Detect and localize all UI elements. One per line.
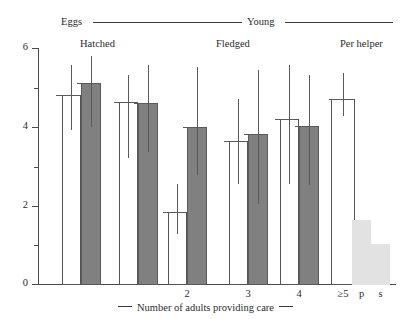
x-tick-label-4: 4 bbox=[275, 288, 323, 299]
errorbar-cap-open-hatched bbox=[114, 102, 136, 103]
errorbar-cap-filled-eggs bbox=[77, 83, 99, 84]
bar-per-helper-s bbox=[371, 244, 390, 285]
errorbar-filled-4 bbox=[309, 75, 310, 185]
errorbar-cap-open-4 bbox=[275, 119, 297, 120]
y-tick-label-6: 6 bbox=[8, 41, 28, 52]
errorbar-cap-filled-hatched bbox=[134, 103, 156, 104]
errorbar-filled-eggs bbox=[91, 56, 92, 127]
errorbar-cap-open-3 bbox=[224, 141, 246, 142]
y-tick-1 bbox=[34, 245, 39, 246]
caption-text: Number of adults providing care bbox=[137, 302, 274, 313]
errorbar-cap-filled-4 bbox=[295, 126, 317, 127]
errorbar-open-2 bbox=[177, 184, 178, 234]
errorbar-cap-filled-2 bbox=[183, 127, 205, 128]
errorbar-filled-2 bbox=[197, 67, 198, 175]
caption-dash-right bbox=[279, 306, 293, 307]
errorbar-open-hatched bbox=[128, 75, 129, 158]
errorbar-open-eggs bbox=[71, 65, 72, 130]
x-tick-label-s: s bbox=[367, 288, 394, 299]
x-tick-label-3: 3 bbox=[224, 288, 272, 299]
bar-per-helper-p bbox=[352, 220, 371, 285]
y-tick-3 bbox=[34, 167, 39, 168]
errorbar-cap-filled-3 bbox=[244, 134, 266, 135]
y-tick-label-4: 4 bbox=[8, 120, 28, 131]
errorbar-filled-hatched bbox=[148, 65, 149, 152]
y-tick-5 bbox=[34, 88, 39, 89]
errorbar-open-4 bbox=[289, 65, 290, 184]
errorbar-cap-open-2 bbox=[163, 212, 185, 213]
y-tick-6 bbox=[32, 48, 39, 49]
errorbar-open-5plus bbox=[343, 73, 344, 116]
y-tick-0 bbox=[32, 284, 39, 285]
x-axis-caption: Number of adults providing care bbox=[0, 301, 411, 313]
chart-figure: Eggs Young Hatched Fledged Per helper 6 … bbox=[0, 0, 411, 319]
errorbar-cap-open-eggs bbox=[56, 95, 78, 96]
errorbar-filled-3 bbox=[258, 70, 259, 204]
errorbar-cap-open-5plus bbox=[329, 99, 351, 100]
x-tick-label-2: 2 bbox=[163, 288, 211, 299]
y-tick-2 bbox=[32, 206, 39, 207]
y-tick-label-0: 0 bbox=[8, 277, 28, 288]
plot-area: 6 4 2 0 2 3 bbox=[0, 0, 411, 319]
caption-dash-left bbox=[118, 306, 132, 307]
y-tick-label-2: 2 bbox=[8, 199, 28, 210]
y-tick-4 bbox=[32, 127, 39, 128]
